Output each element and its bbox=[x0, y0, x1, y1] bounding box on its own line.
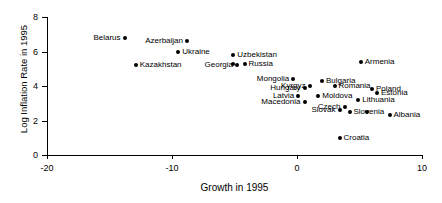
data-point bbox=[123, 36, 127, 40]
data-point-label: Ukraine bbox=[182, 48, 210, 56]
data-point-label: Slovak bbox=[311, 106, 335, 114]
x-tick-label: -10 bbox=[157, 164, 187, 173]
y-axis-title: Log Inflation Rate in 1995 bbox=[19, 9, 29, 149]
x-tick-label: -20 bbox=[32, 164, 62, 173]
data-point bbox=[388, 113, 392, 117]
data-point-label: Georgia bbox=[205, 61, 233, 69]
scatter-chart: 02468 -20-10010 Log Inflation Rate in 19… bbox=[0, 0, 442, 203]
y-tick-mark bbox=[42, 52, 47, 53]
data-point bbox=[185, 39, 189, 43]
data-point bbox=[243, 62, 247, 66]
data-point bbox=[231, 62, 235, 66]
data-point-label: Romania bbox=[339, 82, 371, 90]
y-tick-mark bbox=[42, 86, 47, 87]
y-axis-line bbox=[47, 17, 48, 156]
data-point bbox=[365, 110, 369, 114]
x-tick-mark bbox=[422, 155, 423, 159]
data-point bbox=[343, 105, 347, 109]
data-point bbox=[231, 53, 235, 57]
data-point bbox=[303, 86, 307, 90]
data-point-label: Russia bbox=[249, 60, 273, 68]
y-tick-mark bbox=[42, 17, 47, 18]
data-point-label: Belarus bbox=[93, 34, 120, 42]
data-point-label: Azerbaijan bbox=[145, 37, 183, 45]
x-tick-label: 10 bbox=[407, 164, 437, 173]
data-point-label: Croatia bbox=[344, 134, 370, 142]
data-point bbox=[235, 63, 239, 67]
y-tick-mark bbox=[42, 121, 47, 122]
x-tick-mark bbox=[172, 155, 173, 159]
data-point bbox=[359, 60, 363, 64]
data-point bbox=[333, 84, 337, 88]
x-tick-mark bbox=[47, 155, 48, 159]
y-tick-label: 0 bbox=[18, 151, 38, 160]
data-point bbox=[348, 110, 352, 114]
data-point bbox=[370, 87, 374, 91]
data-point bbox=[308, 84, 312, 88]
data-point-label: Kazakhstan bbox=[140, 61, 182, 69]
data-point-label: Lithuania bbox=[362, 96, 394, 104]
data-point-label: Moldova bbox=[322, 92, 352, 100]
data-point bbox=[176, 50, 180, 54]
x-axis-title: Growth in 1995 bbox=[47, 182, 422, 193]
data-point bbox=[316, 94, 320, 98]
x-tick-mark bbox=[297, 155, 298, 159]
data-point-label: Macedonia bbox=[261, 98, 300, 106]
data-point-label: Armenia bbox=[365, 58, 395, 66]
x-tick-label: 0 bbox=[282, 164, 312, 173]
data-point-label: Albania bbox=[394, 111, 421, 119]
data-point bbox=[320, 79, 324, 83]
x-axis-line bbox=[47, 155, 422, 156]
data-point bbox=[338, 108, 342, 112]
data-point bbox=[134, 63, 138, 67]
data-point bbox=[338, 136, 342, 140]
data-point bbox=[303, 100, 307, 104]
data-point bbox=[356, 98, 360, 102]
